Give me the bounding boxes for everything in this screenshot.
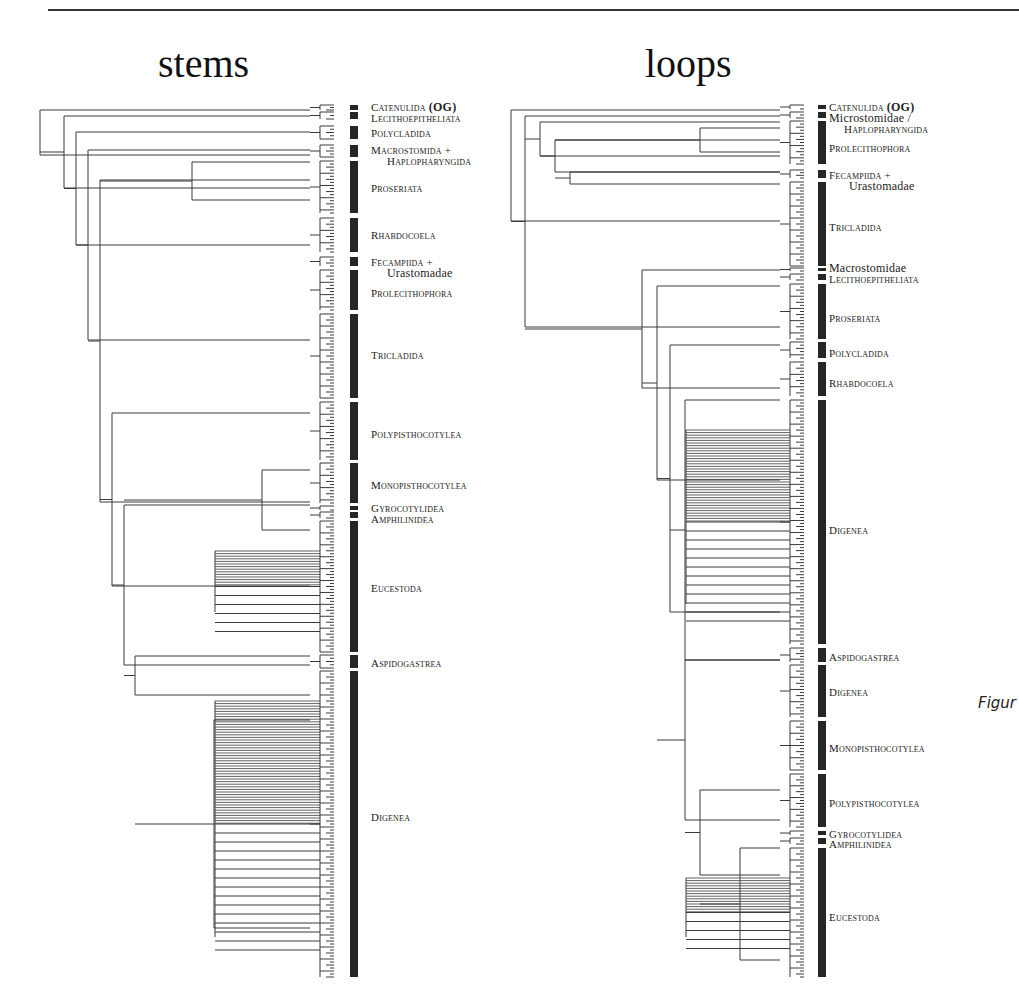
clade-bar-loops-0 (818, 105, 826, 109)
clade-bar-stems-11 (350, 402, 358, 460)
clade-bar-loops-1 (818, 112, 826, 118)
clade-bar-stems-10 (350, 314, 358, 398)
clade-bar-loops-14 (818, 665, 826, 717)
clade-bar-stems-9 (350, 270, 358, 310)
clade-label-urastomadae: Urastomadae (849, 181, 915, 192)
clade-label-text: Prolecithophora (829, 142, 911, 154)
clade-label-proseriata: Proseriata (829, 313, 880, 324)
clade-bar-stems-14 (350, 512, 358, 518)
clade-label-digenea: Digenea (371, 812, 410, 823)
clade-label-text: Rhabdocoela (371, 229, 436, 241)
clade-bar-stems-2 (350, 126, 358, 139)
clade-label-amphilinidea: Amphilinidea (371, 514, 434, 525)
clade-bar-loops-15 (818, 721, 826, 770)
clade-bar-loops-10 (818, 342, 826, 358)
clade-bar-loops-12 (818, 400, 826, 644)
clade-bar-loops-3 (818, 121, 826, 164)
clade-label-text: Polycladida (829, 347, 889, 359)
clade-label-monopisthocotylea: Monopisthocotylea (371, 480, 467, 491)
clade-bar-stems-17 (350, 671, 358, 977)
clade-label-text: Polypisthocotylea (829, 797, 920, 809)
clade-bar-loops-9 (818, 284, 826, 339)
clade-label-prolecithophora: Prolecithophora (829, 143, 911, 154)
clade-bar-loops-8 (818, 274, 826, 280)
clade-label-text: Haplopharyngida (387, 155, 471, 167)
clade-label-text: Lecithoepitheliata (371, 112, 461, 124)
clade-label-text: Amphilinidea (829, 838, 892, 850)
clade-bar-loops-18 (818, 838, 826, 844)
clade-bar-stems-0 (350, 105, 358, 110)
figure-caption-fragment: Figur (978, 694, 1016, 712)
clade-bar-loops-6 (818, 182, 826, 266)
clade-bar-loops-17 (818, 831, 826, 835)
clade-label-aspidogastrea: Aspidogastrea (829, 652, 900, 663)
clade-label-lecithoepitheliata: Lecithoepitheliata (829, 274, 919, 285)
clade-bar-stems-1 (350, 112, 358, 119)
clade-label-aspidogastrea: Aspidogastrea (371, 658, 442, 669)
clade-label-text: Polycladida (371, 127, 431, 139)
clade-label-text: Eucestoda (371, 582, 422, 594)
clade-label-text: Tricladida (829, 221, 882, 233)
clade-label-text: Lecithoepitheliata (829, 273, 919, 285)
clade-label-proseriata: Proseriata (371, 183, 422, 194)
clade-label-lecithoepitheliata: Lecithoepitheliata (371, 113, 461, 124)
clade-label-polypisthocotylea: Polypisthocotylea (371, 429, 462, 440)
clade-label-digenea: Digenea (829, 525, 868, 536)
clade-label-text: Prolecithophora (371, 287, 453, 299)
clade-bar-loops-7 (818, 268, 826, 271)
clade-bar-stems-5 (350, 161, 358, 213)
clade-label-text: Monopisthocotylea (829, 742, 925, 754)
clade-label-urastomadae: Urastomadae (387, 268, 453, 279)
clade-bar-stems-6 (350, 218, 358, 252)
clade-label-text: Polypisthocotylea (371, 428, 462, 440)
clade-label-text: Tricladida (371, 349, 424, 361)
clade-label-text: Rhabdocoela (829, 377, 894, 389)
clade-label-text: Aspidogastrea (371, 657, 442, 669)
clade-label-text: Urastomadae (387, 266, 453, 280)
clade-label-polycladida: Polycladida (829, 348, 889, 359)
clade-label-text: Amphilinidea (371, 513, 434, 525)
clade-bar-stems-7 (350, 257, 358, 266)
clade-bar-loops-16 (818, 774, 826, 827)
clade-label-text: Eucestoda (829, 911, 880, 923)
clade-bar-loops-19 (818, 848, 826, 977)
clade-label-prolecithophora: Prolecithophora (371, 288, 453, 299)
clade-bar-loops-11 (818, 362, 826, 396)
clade-label-haplopharyngida: Haplopharyngida (387, 156, 471, 167)
clade-label-rhabdocoela: Rhabdocoela (371, 230, 436, 241)
clade-label-monopisthocotylea: Monopisthocotylea (829, 743, 925, 754)
clade-label-text: Aspidogastrea (829, 651, 900, 663)
clade-label-text: Digenea (829, 686, 868, 698)
clade-label-digenea: Digenea (829, 687, 868, 698)
clade-label-text: Digenea (371, 811, 410, 823)
clade-bar-stems-3 (350, 145, 358, 157)
clade-label-amphilinidea: Amphilinidea (829, 839, 892, 850)
clade-bar-stems-16 (350, 655, 358, 668)
clade-label-haplopharyngida: Haplopharyngida (844, 124, 928, 135)
clade-label-text: Monopisthocotylea (371, 479, 467, 491)
clade-bar-loops-13 (818, 648, 826, 662)
clade-label-eucestoda: Eucestoda (829, 912, 880, 923)
clade-bar-stems-15 (350, 521, 358, 652)
clade-label-eucestoda: Eucestoda (371, 583, 422, 594)
clade-label-tricladida: Tricladida (371, 350, 424, 361)
clade-bar-stems-13 (350, 506, 358, 510)
clade-label-polycladida: Polycladida (371, 128, 431, 139)
clade-bar-loops-4 (818, 170, 826, 178)
clade-label-tricladida: Tricladida (829, 222, 882, 233)
clade-label-text: Proseriata (829, 312, 880, 324)
clade-label-text: Digenea (829, 524, 868, 536)
clade-label-rhabdocoela: Rhabdocoela (829, 378, 894, 389)
clade-label-text: Proseriata (371, 182, 422, 194)
clade-label-polypisthocotylea: Polypisthocotylea (829, 798, 920, 809)
clade-bar-stems-12 (350, 463, 358, 503)
clade-label-text: Haplopharyngida (844, 123, 928, 135)
clade-label-text: Urastomadae (849, 179, 915, 193)
